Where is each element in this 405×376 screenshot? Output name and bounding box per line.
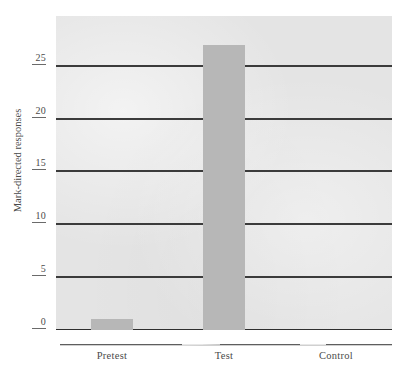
x-tick-label-control: Control bbox=[286, 350, 386, 362]
y-tick-rule-15 bbox=[32, 169, 46, 170]
y-tick-rule-0 bbox=[32, 328, 46, 329]
y-tick-label-5: 5 bbox=[24, 264, 46, 274]
plot-area bbox=[56, 16, 392, 330]
y-tick-label-0: 0 bbox=[24, 317, 46, 327]
y-tick-label-15: 15 bbox=[24, 158, 46, 168]
y-tick-rule-10 bbox=[32, 222, 46, 223]
y-tick-rule-25 bbox=[32, 64, 46, 65]
y-tick-rule-5 bbox=[32, 275, 46, 276]
bar-chart-figure: 0510152025 Mark-directed responses Prete… bbox=[0, 0, 405, 376]
y-tick-label-25: 25 bbox=[24, 53, 46, 63]
bar-test bbox=[203, 45, 245, 330]
x-tick-label-test: Test bbox=[174, 350, 274, 362]
y-tick-label-20: 20 bbox=[24, 106, 46, 116]
bar-pretest bbox=[91, 319, 133, 330]
x-axis-line bbox=[60, 344, 392, 345]
y-axis-title: Mark-directed responses bbox=[12, 81, 23, 241]
x-tick-label-pretest: Pretest bbox=[62, 350, 162, 362]
y-tick-label-10: 10 bbox=[24, 211, 46, 221]
y-tick-rule-20 bbox=[32, 117, 46, 118]
